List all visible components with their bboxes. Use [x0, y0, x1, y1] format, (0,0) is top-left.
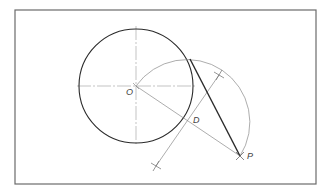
label-O: O	[126, 87, 133, 97]
cross-mark-P	[236, 152, 244, 160]
line-OP	[136, 86, 240, 156]
cross-mark-top	[214, 70, 224, 80]
label-P: P	[247, 151, 253, 161]
label-D: D	[193, 115, 200, 125]
geometry-diagram: O D P	[0, 0, 329, 192]
drawing-frame	[15, 10, 316, 184]
cross-mark-bottom	[151, 161, 161, 171]
tangent-line	[190, 59, 240, 156]
perpendicular-bisector	[156, 75, 219, 166]
